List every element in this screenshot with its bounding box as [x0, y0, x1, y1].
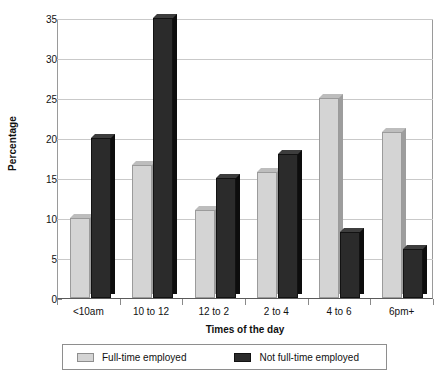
- y-axis-tick-label: 20: [15, 134, 57, 145]
- y-axis-tick-label: 5: [15, 254, 57, 265]
- y-axis-tick-label: 0: [15, 294, 57, 305]
- bar: [132, 165, 152, 298]
- x-axis-tick-label: <10am: [57, 306, 120, 317]
- x-axis-tick-label: 4 to 6: [308, 306, 371, 317]
- bar-face: [216, 178, 236, 298]
- bar: [382, 132, 402, 298]
- y-axis-tick-label: 10: [15, 214, 57, 225]
- y-axis-tick-label: 15: [15, 174, 57, 185]
- bar: [403, 249, 423, 298]
- bar-face: [195, 210, 215, 298]
- bar-top: [403, 245, 427, 249]
- bar-face: [70, 218, 90, 298]
- x-axis-tick-mark: [57, 299, 58, 305]
- bar-groups: [58, 19, 432, 298]
- bar-top: [278, 150, 302, 154]
- bar-face: [340, 232, 360, 298]
- bar-group: [183, 19, 245, 298]
- bar: [70, 218, 90, 298]
- bar-face: [403, 249, 423, 298]
- x-axis-tick-label: 12 to 2: [182, 306, 245, 317]
- bar-side: [360, 228, 364, 294]
- plot-area: [57, 19, 433, 299]
- bar-top: [216, 174, 240, 178]
- bar-side: [236, 174, 240, 294]
- x-axis-tick-mark: [182, 299, 183, 305]
- legend-item-full-time-employed: Full-time employed: [77, 345, 186, 369]
- bar-side: [423, 245, 427, 294]
- bar: [195, 210, 215, 298]
- x-axis-tick-mark: [245, 299, 246, 305]
- bar-group: [120, 19, 182, 298]
- legend-label: Full-time employed: [102, 352, 186, 363]
- bar-face: [153, 18, 173, 298]
- bar-group: [58, 19, 120, 298]
- bar-side: [298, 150, 302, 294]
- x-axis-labels: <10am10 to 1212 to 22 to 44 to 66pm+: [57, 306, 433, 317]
- bar: [278, 154, 298, 298]
- bar-face: [278, 154, 298, 298]
- x-axis-tick-mark: [370, 299, 371, 305]
- x-axis-tick-label: 10 to 12: [120, 306, 183, 317]
- legend-item-not-full-time-employed: Not full-time employed: [234, 345, 358, 369]
- x-axis-tick-mark: [120, 299, 121, 305]
- y-axis-tick-label: 35: [15, 14, 57, 25]
- bar-group: [307, 19, 369, 298]
- bar: [257, 172, 277, 298]
- x-axis-ticks: [57, 299, 433, 305]
- bar-side: [173, 14, 177, 294]
- chart-legend: Full-time employed Not full-time employe…: [62, 344, 387, 370]
- bar-face: [319, 98, 339, 298]
- bar-face: [91, 138, 111, 298]
- bar-side: [111, 134, 115, 294]
- bar-group: [245, 19, 307, 298]
- bar: [319, 98, 339, 298]
- bar-top: [382, 128, 406, 132]
- x-axis-tick-mark: [433, 299, 434, 305]
- bar-group: [370, 19, 432, 298]
- bar: [340, 232, 360, 298]
- bar-face: [132, 165, 152, 298]
- x-axis-tick-mark: [308, 299, 309, 305]
- bar-face: [382, 132, 402, 298]
- bar: [91, 138, 111, 298]
- y-axis-ticks: 05101520253035: [8, 19, 57, 299]
- bar-chart: Percentage 05101520253035 <10am10 to 121…: [0, 0, 448, 378]
- y-axis-tick-label: 30: [15, 54, 57, 65]
- x-axis-tick-label: 6pm+: [370, 306, 433, 317]
- bar-face: [257, 172, 277, 298]
- legend-swatch-icon: [77, 353, 94, 362]
- legend-label: Not full-time employed: [259, 352, 358, 363]
- bar: [153, 18, 173, 298]
- bar-top: [91, 134, 115, 138]
- x-axis-tick-label: 2 to 4: [245, 306, 308, 317]
- y-axis-tick-label: 25: [15, 94, 57, 105]
- bar: [216, 178, 236, 298]
- legend-swatch-icon: [234, 353, 251, 362]
- x-axis-title: Times of the day: [57, 324, 433, 335]
